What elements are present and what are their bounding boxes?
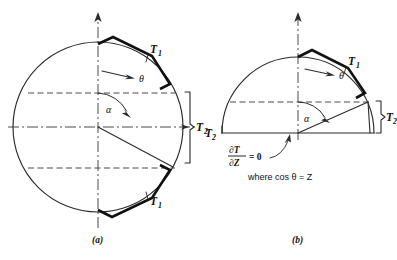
panel-a-t1-band-upper <box>98 37 170 89</box>
panel-b-equation-numerator: ∂T <box>229 145 241 155</box>
panel-a-radius-line <box>98 127 173 167</box>
panel-b-t1-label: T <box>348 55 356 67</box>
figure-container: α θ T 1 T 1 T 2 (a) <box>0 0 397 260</box>
panel-b-t2-left-sublabel: 2 <box>211 133 216 142</box>
panel-a-vertical-axis-arrowhead <box>94 12 101 22</box>
panel-b-caption: (b) <box>292 235 303 246</box>
panel-b-equation-rhs: = 0 <box>249 152 262 162</box>
panel-a: α θ T 1 T 1 T 2 (a) <box>8 12 208 246</box>
panel-b-t1-sublabel: 1 <box>356 61 360 70</box>
panel-b-note: where cos θ = Z <box>247 172 313 182</box>
panel-a-theta-label: θ <box>139 73 144 84</box>
panel-b-theta-label: θ <box>339 70 344 81</box>
panel-a-alpha-label: α <box>106 104 112 115</box>
panel-b-theta-arrow-line <box>305 69 328 74</box>
technical-diagram-svg: α θ T 1 T 1 T 2 (a) <box>0 0 397 260</box>
panel-a-t2-label: T <box>196 121 204 133</box>
panel-a-t1-lower-label: T <box>150 195 158 207</box>
panel-a-caption: (a) <box>92 235 103 246</box>
panel-b-t2-bracket <box>376 101 385 133</box>
panel-b: α θ T 1 T 2 T 2 ∂T ∂Z = 0 whe <box>205 12 397 246</box>
panel-a-theta-arrow-line <box>102 71 128 77</box>
panel-b-equation-denominator: ∂Z <box>229 158 240 168</box>
panel-a-t1-upper-sublabel: 1 <box>158 49 162 58</box>
panel-a-t1-lower-sublabel: 1 <box>158 201 162 210</box>
panel-a-t1-upper-label: T <box>150 43 158 55</box>
panel-a-alpha-arc <box>98 93 127 111</box>
panel-b-alpha-label: α <box>304 113 310 124</box>
panel-b-equation-leader <box>270 141 288 158</box>
panel-b-alpha-arc <box>298 102 325 118</box>
panel-b-t2-sublabel: 2 <box>392 117 397 126</box>
